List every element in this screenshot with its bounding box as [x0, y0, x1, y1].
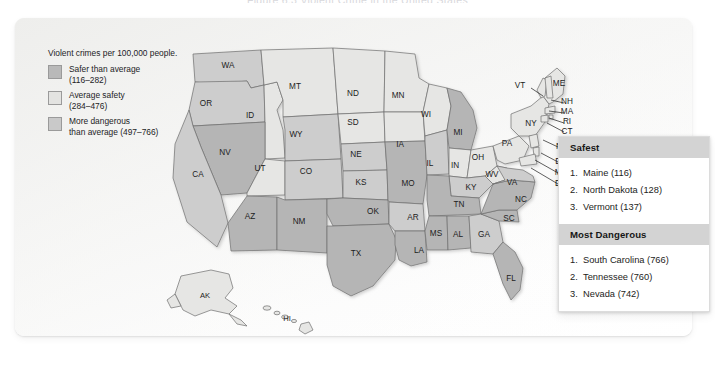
- ranking-box: Safest 1.Maine (116)2.North Dakota (128)…: [558, 136, 710, 312]
- state-label-ny: NY: [525, 119, 537, 128]
- rank-label: Vermont (137): [583, 202, 642, 213]
- state-label-tx: TX: [351, 249, 362, 258]
- state-label-az: AZ: [245, 212, 255, 221]
- state-label-ri: RI: [563, 117, 571, 126]
- state-label-in: IN: [451, 161, 459, 170]
- rank-number: 3.: [570, 202, 583, 213]
- state-label-vt: VT: [515, 81, 525, 90]
- rank-label: Tennessee (760): [583, 272, 652, 283]
- safest-heading: Safest: [559, 137, 709, 158]
- state-label-ok: OK: [367, 207, 379, 216]
- legend-label-text: Safer than average: [69, 64, 140, 75]
- legend-range-text: (284–476): [69, 101, 125, 112]
- state-label-co: CO: [300, 167, 312, 176]
- state-label-nc: NC: [515, 195, 527, 204]
- state-label-ne: NE: [350, 150, 362, 159]
- legend-swatch-dangerous: [48, 117, 62, 131]
- state-label-mn: MN: [392, 91, 405, 100]
- rank-number: 3.: [570, 289, 583, 300]
- state-label-sd: SD: [347, 118, 358, 127]
- state-label-mi: MI: [453, 128, 462, 137]
- safest-list: 1.Maine (116)2.North Dakota (128)3.Vermo…: [559, 158, 709, 224]
- state-label-la: LA: [414, 246, 425, 255]
- state-label-il: IL: [427, 159, 434, 168]
- state-label-hi: HI: [283, 314, 291, 323]
- state-label-ak: AK: [200, 291, 210, 300]
- state-label-tn: TN: [454, 200, 465, 209]
- state-label-wy: WY: [289, 130, 303, 139]
- rank-item: 1.Maine (116): [570, 165, 700, 182]
- state-label-mo: MO: [401, 179, 414, 188]
- state-label-oh: OH: [472, 153, 484, 162]
- rank-label: North Dakota (128): [583, 185, 662, 196]
- state-label-ma: MA: [561, 107, 574, 116]
- legend-range-text: (116–282): [69, 75, 140, 86]
- legend-swatch-average: [48, 91, 62, 105]
- legend-range-text: than average (497–766): [69, 127, 158, 138]
- state-label-ks: KS: [356, 178, 367, 187]
- rank-item: 3.Vermont (137): [570, 199, 700, 216]
- state-label-nm: NM: [293, 217, 306, 226]
- rank-item: 3.Nevada (742): [570, 286, 700, 303]
- state-label-al: AL: [453, 230, 463, 239]
- legend-label-dangerous: More dangerousthan average (497–766): [69, 116, 158, 137]
- state-label-sc: SC: [503, 214, 514, 223]
- rank-label: South Carolina (766): [583, 255, 669, 266]
- state-label-nd: ND: [347, 89, 359, 98]
- legend-title: Violent crimes per 100,000 people.: [48, 48, 218, 58]
- legend-item-average: Average safety(284–476): [48, 90, 218, 111]
- state-label-ky: KY: [466, 183, 477, 192]
- rank-number: 2.: [570, 272, 583, 283]
- legend-swatch-safer: [48, 65, 62, 79]
- state-label-nv: NV: [219, 148, 231, 157]
- most-dangerous-heading: Most Dangerous: [559, 224, 709, 245]
- state-label-fl: FL: [506, 274, 516, 283]
- most-dangerous-list: 1.South Carolina (766)2.Tennessee (760)3…: [559, 245, 709, 311]
- legend-label-text: More dangerous: [69, 116, 158, 127]
- state-label-id: ID: [246, 111, 254, 120]
- rank-number: 2.: [570, 185, 583, 196]
- state-label-ia: IA: [396, 140, 404, 149]
- state-label-ga: GA: [478, 230, 490, 239]
- state-label-ut: UT: [255, 164, 266, 173]
- state-label-nh: NH: [561, 97, 573, 106]
- legend-label-safer: Safer than average(116–282): [69, 64, 140, 85]
- map-legend: Violent crimes per 100,000 people. Safer…: [48, 48, 218, 143]
- state-label-wv: WV: [485, 170, 499, 179]
- rank-item: 2.North Dakota (128): [570, 182, 700, 199]
- state-label-mt: MT: [289, 82, 301, 91]
- legend-item-dangerous: More dangerousthan average (497–766): [48, 116, 218, 137]
- rank-item: 2.Tennessee (760): [570, 269, 700, 286]
- state-label-ca: CA: [192, 170, 204, 179]
- state-label-va: VA: [507, 178, 518, 187]
- state-label-ct: CT: [562, 127, 573, 136]
- rank-label: Maine (116): [583, 168, 632, 179]
- legend-item-safer: Safer than average(116–282): [48, 64, 218, 85]
- state-label-me: ME: [553, 79, 566, 88]
- rank-item: 1.South Carolina (766): [570, 252, 700, 269]
- figure-title: Figure 6.3 Violent Crime in the United S…: [0, 0, 715, 3]
- rank-number: 1.: [570, 255, 583, 266]
- legend-label-average: Average safety(284–476): [69, 90, 125, 111]
- rank-number: 1.: [570, 168, 583, 179]
- state-label-wi: WI: [421, 110, 431, 119]
- legend-rows: Safer than average(116–282)Average safet…: [48, 64, 218, 138]
- state-label-ms: MS: [430, 229, 443, 238]
- legend-label-text: Average safety: [69, 90, 125, 101]
- state-label-pa: PA: [502, 139, 513, 148]
- state-label-ar: AR: [407, 213, 418, 222]
- rank-label: Nevada (742): [583, 289, 639, 300]
- state-label-wa: WA: [222, 61, 235, 70]
